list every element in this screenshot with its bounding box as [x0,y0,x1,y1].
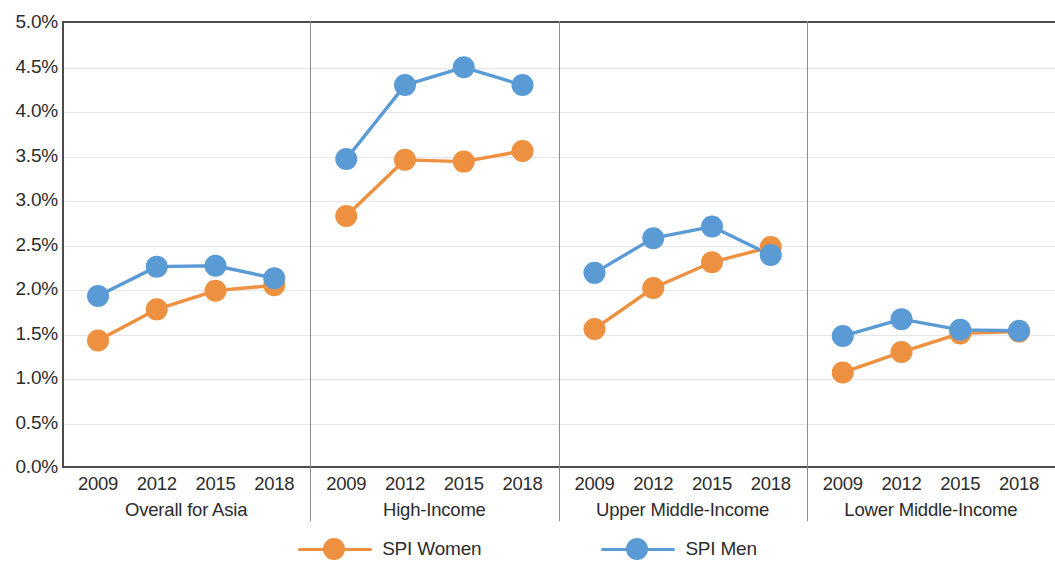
y-axis-tick-label: 2.0% [2,279,58,298]
x-axis-tick-label: 2015 [930,473,990,495]
x-axis-tick-label: 2018 [741,473,801,495]
legend-marker-icon [298,538,372,560]
x-axis-tick-label: 2012 [127,473,187,495]
x-axis-tick-label: 2015 [682,473,742,495]
y-axis-tick-label: 4.5% [2,57,58,76]
y-axis-tick-label: 4.0% [2,101,58,120]
series-line [346,151,522,216]
data-point-marker [832,362,854,384]
data-point-marker [701,216,723,238]
group-separator [559,21,560,521]
x-axis-tick-label: 2009 [68,473,128,495]
data-point-marker [87,330,109,352]
y-axis-tick-label: 2.5% [2,235,58,254]
group-separator [310,21,311,521]
series-line [595,227,771,273]
x-axis-tick-label: 2009 [565,473,625,495]
legend-item[interactable]: SPI Men [601,538,756,560]
series-line [346,67,522,159]
data-point-marker [642,227,664,249]
data-point-marker [146,256,168,278]
x-axis-group-label: Lower Middle-Income [781,499,1055,521]
data-point-marker [87,285,109,307]
x-axis-tick-label: 2012 [623,473,683,495]
data-point-marker [205,255,227,277]
y-axis-tick-label: 3.5% [2,146,58,165]
x-axis-tick-label: 2009 [813,473,873,495]
data-point-marker [760,244,782,266]
data-point-marker [453,151,475,173]
y-axis-tick-label: 1.5% [2,324,58,343]
legend-label: SPI Women [382,539,481,558]
series-line [98,266,274,296]
legend-label: SPI Men [685,539,756,558]
data-point-marker [642,277,664,299]
line-chart: 0.0%0.5%1.0%1.5%2.0%2.5%3.0%3.5%4.0%4.5%… [0,0,1055,566]
series-line [595,247,771,329]
x-axis-tick-label: 2009 [316,473,376,495]
x-axis-tick-label: 2012 [872,473,932,495]
series-line [98,285,274,340]
x-axis-tick-label: 2018 [493,473,553,495]
data-point-marker [891,308,913,330]
data-point-marker [205,280,227,302]
x-axis-tick-label: 2018 [244,473,304,495]
x-axis-tick-label: 2012 [375,473,435,495]
y-axis-tick-label: 5.0% [2,12,58,31]
data-point-marker [263,267,285,289]
legend-marker-icon [601,538,675,560]
data-point-marker [584,262,606,284]
x-axis-tick-label: 2018 [989,473,1049,495]
x-axis-tick-label: 2015 [186,473,246,495]
x-axis-tick-label: 2015 [434,473,494,495]
data-point-marker [453,56,475,78]
data-point-marker [146,298,168,320]
data-point-marker [512,140,534,162]
y-axis-tick-label: 3.0% [2,190,58,209]
data-point-marker [335,148,357,170]
legend-item[interactable]: SPI Women [298,538,481,560]
data-point-marker [832,325,854,347]
data-point-marker [394,149,416,171]
group-separator [807,21,808,521]
data-point-marker [1008,320,1030,342]
data-point-marker [949,319,971,341]
y-axis-tick-label: 1.0% [2,368,58,387]
series-line [843,332,1019,373]
y-axis-tick-label: 0.5% [2,413,58,432]
data-point-marker [394,74,416,96]
chart-legend: SPI WomenSPI Men [0,531,1055,566]
legend-dot-icon [626,538,648,560]
data-point-marker [701,251,723,273]
data-point-marker [584,318,606,340]
x-axis: 2009201220152018Overall for Asia20092012… [0,468,1055,528]
data-point-marker [335,205,357,227]
data-point-marker [891,341,913,363]
data-point-marker [512,74,534,96]
legend-dot-icon [323,538,345,560]
